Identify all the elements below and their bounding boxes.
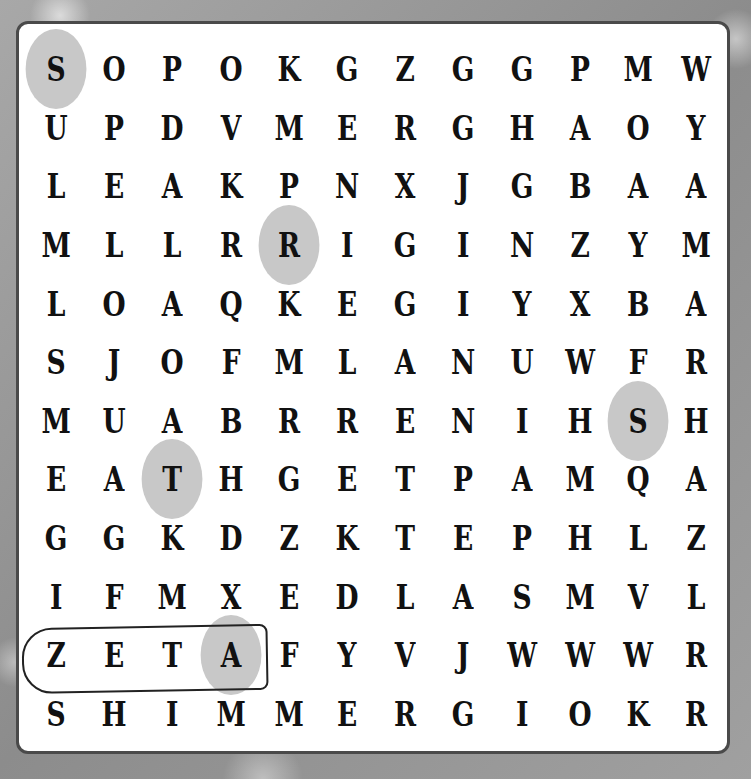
grid-cell[interactable]: M <box>266 685 311 744</box>
grid-cell[interactable]: I <box>324 216 369 275</box>
grid-cell[interactable]: E <box>324 274 369 333</box>
grid-cell[interactable]: X <box>383 157 428 216</box>
grid-cell[interactable]: G <box>441 40 486 99</box>
grid-cell[interactable]: I <box>150 685 195 744</box>
grid-cell[interactable]: R <box>673 333 718 392</box>
grid-cell[interactable]: Q <box>615 450 660 509</box>
grid-cell[interactable]: E <box>33 450 78 509</box>
grid-cell[interactable]: V <box>208 99 253 158</box>
grid-cell[interactable]: R <box>266 392 311 451</box>
grid-cell-highlighted[interactable]: T <box>150 450 195 509</box>
grid-cell[interactable]: I <box>499 392 544 451</box>
grid-cell[interactable]: L <box>615 509 660 568</box>
grid-cell[interactable]: E <box>383 392 428 451</box>
grid-cell[interactable]: E <box>324 450 369 509</box>
grid-cell[interactable]: L <box>33 274 78 333</box>
grid-cell[interactable]: G <box>441 99 486 158</box>
grid-cell[interactable]: H <box>557 509 602 568</box>
grid-cell[interactable]: N <box>441 392 486 451</box>
grid-cell-highlighted[interactable]: S <box>33 40 78 99</box>
grid-cell[interactable]: H <box>92 685 137 744</box>
grid-cell[interactable]: S <box>33 333 78 392</box>
grid-cell[interactable]: K <box>266 274 311 333</box>
grid-cell[interactable]: E <box>441 509 486 568</box>
grid-cell[interactable]: A <box>383 333 428 392</box>
grid-cell[interactable]: B <box>557 157 602 216</box>
grid-cell[interactable]: E <box>92 626 137 685</box>
grid-cell[interactable]: A <box>441 567 486 626</box>
grid-cell[interactable]: Y <box>324 626 369 685</box>
grid-cell[interactable]: Z <box>383 40 428 99</box>
grid-cell[interactable]: L <box>673 567 718 626</box>
grid-cell[interactable]: B <box>615 274 660 333</box>
grid-cell[interactable]: R <box>324 392 369 451</box>
grid-cell[interactable]: Z <box>557 216 602 275</box>
grid-cell[interactable]: A <box>499 450 544 509</box>
grid-cell[interactable]: Y <box>615 216 660 275</box>
grid-cell[interactable]: O <box>615 99 660 158</box>
grid-cell[interactable]: E <box>266 567 311 626</box>
grid-cell[interactable]: J <box>441 626 486 685</box>
grid-cell[interactable]: A <box>615 157 660 216</box>
grid-cell[interactable]: K <box>150 509 195 568</box>
grid-cell[interactable]: L <box>33 157 78 216</box>
grid-cell[interactable]: G <box>499 40 544 99</box>
grid-cell[interactable]: W <box>557 626 602 685</box>
grid-cell[interactable]: R <box>673 685 718 744</box>
grid-cell[interactable]: W <box>557 333 602 392</box>
grid-cell[interactable]: A <box>92 450 137 509</box>
grid-cell-highlighted[interactable]: A <box>208 626 253 685</box>
grid-cell[interactable]: E <box>92 157 137 216</box>
grid-cell[interactable]: O <box>150 333 195 392</box>
grid-cell[interactable]: M <box>150 567 195 626</box>
grid-cell[interactable]: T <box>383 450 428 509</box>
grid-cell[interactable]: U <box>499 333 544 392</box>
grid-cell[interactable]: U <box>33 99 78 158</box>
grid-cell[interactable]: H <box>208 450 253 509</box>
grid-cell[interactable]: V <box>615 567 660 626</box>
grid-cell[interactable]: P <box>557 40 602 99</box>
grid-cell[interactable]: G <box>383 274 428 333</box>
grid-cell[interactable]: G <box>383 216 428 275</box>
grid-cell[interactable]: M <box>208 685 253 744</box>
grid-cell[interactable]: Y <box>673 99 718 158</box>
grid-cell[interactable]: G <box>266 450 311 509</box>
grid-cell[interactable]: A <box>557 99 602 158</box>
grid-cell[interactable]: J <box>441 157 486 216</box>
grid-cell[interactable]: Z <box>673 509 718 568</box>
grid-cell[interactable]: E <box>324 685 369 744</box>
grid-cell[interactable]: R <box>208 216 253 275</box>
grid-cell[interactable]: P <box>499 509 544 568</box>
grid-cell[interactable]: W <box>615 626 660 685</box>
grid-cell[interactable]: T <box>383 509 428 568</box>
grid-cell[interactable]: M <box>33 392 78 451</box>
grid-cell[interactable]: H <box>557 392 602 451</box>
grid-cell[interactable]: A <box>673 274 718 333</box>
grid-cell[interactable]: S <box>33 685 78 744</box>
grid-cell[interactable]: M <box>33 216 78 275</box>
grid-cell[interactable]: A <box>673 450 718 509</box>
grid-cell[interactable]: R <box>383 685 428 744</box>
grid-cell[interactable]: Y <box>499 274 544 333</box>
grid-cell[interactable]: F <box>92 567 137 626</box>
grid-cell[interactable]: R <box>383 99 428 158</box>
grid-cell[interactable]: I <box>441 274 486 333</box>
grid-cell[interactable]: V <box>383 626 428 685</box>
grid-cell[interactable]: W <box>673 40 718 99</box>
grid-cell[interactable]: H <box>673 392 718 451</box>
grid-cell[interactable]: R <box>673 626 718 685</box>
grid-cell[interactable]: T <box>150 626 195 685</box>
grid-cell[interactable]: O <box>557 685 602 744</box>
grid-cell[interactable]: O <box>92 274 137 333</box>
grid-cell[interactable]: L <box>92 216 137 275</box>
grid-cell[interactable]: M <box>557 567 602 626</box>
grid-cell[interactable]: N <box>441 333 486 392</box>
grid-cell[interactable]: D <box>208 509 253 568</box>
grid-cell[interactable]: M <box>557 450 602 509</box>
grid-cell[interactable]: A <box>673 157 718 216</box>
grid-cell[interactable]: N <box>324 157 369 216</box>
grid-cell[interactable]: E <box>324 99 369 158</box>
grid-cell[interactable]: U <box>92 392 137 451</box>
grid-cell-highlighted[interactable]: S <box>615 392 660 451</box>
grid-cell[interactable]: L <box>383 567 428 626</box>
